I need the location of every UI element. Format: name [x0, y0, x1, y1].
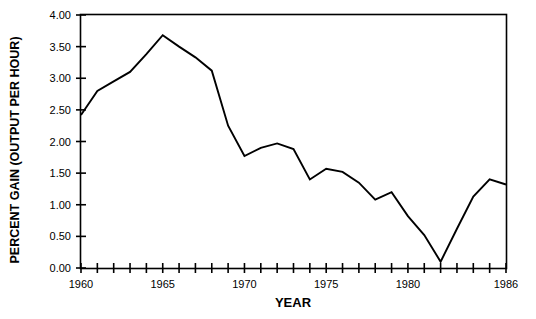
x-axis-tick-label: 1965	[150, 278, 174, 290]
chart-container: 0.000.501.001.502.002.503.003.504.00 196…	[0, 0, 536, 319]
x-axis-tick-label: 1980	[396, 278, 420, 290]
y-axis-title: PERCENT GAIN (OUTPUT PER HOUR)	[8, 36, 22, 263]
y-axis-tick-label: 0.00	[50, 262, 71, 274]
x-axis-title: YEAR	[275, 295, 312, 310]
x-axis-tick-label: 1986	[494, 278, 518, 290]
plot-frame	[81, 15, 507, 269]
data-series-line	[81, 35, 506, 261]
y-axis-tick-label: 0.50	[50, 230, 71, 242]
x-axis-tick-label: 1970	[232, 278, 256, 290]
y-axis-tick-label: 4.00	[50, 9, 71, 21]
x-axis: 196019651970197519801986	[69, 263, 518, 290]
y-axis-tick-label: 1.00	[50, 199, 71, 211]
x-axis-tick-label: 1975	[314, 278, 338, 290]
line-chart: 0.000.501.001.502.002.503.003.504.00 196…	[0, 0, 536, 319]
y-axis-tick-label: 1.50	[50, 167, 71, 179]
y-axis-tick-label: 3.50	[50, 41, 71, 53]
y-axis-tick-label: 2.00	[50, 136, 71, 148]
x-axis-tick-label: 1960	[69, 278, 93, 290]
y-axis-tick-label: 2.50	[50, 104, 71, 116]
y-axis-tick-label: 3.00	[50, 72, 71, 84]
